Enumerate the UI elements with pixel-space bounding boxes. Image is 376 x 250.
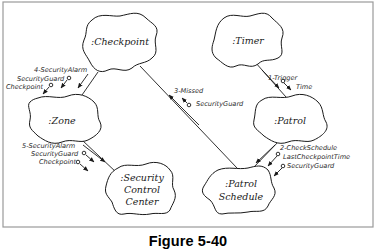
param-arrow <box>43 87 49 94</box>
object-timer[interactable]: :Timer <box>212 13 283 67</box>
param-label: LastCheckpointTime <box>283 153 350 161</box>
message-3-missed: 3-Missed SecurityGuard <box>169 87 244 125</box>
param-arrow <box>274 168 282 176</box>
message-label: 5-SecurityAlarm <box>22 142 75 150</box>
param-label: SecurityGuard <box>287 162 335 170</box>
param-arrow <box>182 98 187 103</box>
param-label: SecurityGuard <box>196 100 244 108</box>
object-label-checkpoint: :Checkpoint <box>91 36 149 47</box>
object-label-scc-line1: :Security <box>120 172 164 183</box>
param-label: SecurityGuard <box>17 75 65 83</box>
data-token-icon <box>76 160 80 164</box>
param-arrow <box>268 156 277 166</box>
param-arrow <box>86 155 94 162</box>
param-label: Checkpoint <box>6 83 44 91</box>
link-checkpoint-patrolschedule <box>140 66 237 168</box>
object-zone[interactable]: :Zone <box>29 94 101 143</box>
object-label-ps-line2: Schedule <box>219 191 264 202</box>
object-label-scc-line3: Center <box>126 196 160 207</box>
message-5-securityalarm: 5-SecurityAlarm SecurityGuard Checkpoint <box>22 142 105 171</box>
object-patrol-schedule[interactable]: :Patrol Schedule <box>202 166 275 214</box>
data-token-icon <box>49 83 53 87</box>
object-label-ps-line1: :Patrol <box>225 178 257 189</box>
param-arrow <box>284 83 291 90</box>
object-patrol[interactable]: :Patrol <box>254 94 327 143</box>
data-token-icon <box>67 76 71 80</box>
link-checkpoint-zone <box>82 72 98 95</box>
object-label-timer: :Timer <box>232 35 265 46</box>
param-label: Checkpoint <box>39 158 77 166</box>
object-label-scc-line2: Control <box>124 184 160 195</box>
message-arrow <box>256 145 275 163</box>
data-token-icon <box>82 151 86 155</box>
param-label: SecurityGuard <box>31 150 79 158</box>
param-arrow <box>80 164 88 171</box>
message-arrow <box>83 145 105 162</box>
diagram-canvas: :Checkpoint :Timer :Zone :Patrol :Securi… <box>0 0 376 250</box>
object-label-zone: :Zone <box>48 115 76 126</box>
message-arrow <box>78 74 88 88</box>
message-1-trigger: 1-Trigger Time <box>262 70 312 91</box>
param-label: Time <box>296 83 312 91</box>
data-token-icon <box>281 164 285 168</box>
message-4-securityalarm: 4-SecurityAlarm SecurityGuard Checkpoint <box>6 66 88 94</box>
data-token-icon <box>276 152 280 156</box>
figure-caption: Figure 5-40 <box>0 233 376 249</box>
cloud-shape <box>202 166 275 214</box>
message-label: 2-CheckSchedule <box>280 144 337 152</box>
data-token-icon <box>281 79 285 83</box>
object-checkpoint[interactable]: :Checkpoint <box>83 13 157 71</box>
data-token-icon <box>187 103 191 107</box>
message-label: 3-Missed <box>174 87 204 95</box>
object-label-patrol: :Patrol <box>274 115 306 126</box>
object-security-control-center[interactable]: :Security Control Center <box>105 162 175 214</box>
message-label: 4-SecurityAlarm <box>34 66 87 74</box>
message-2-checkschedule: 2-CheckSchedule LastCheckpointTime Secur… <box>256 144 350 176</box>
collaboration-diagram: :Checkpoint :Timer :Zone :Patrol :Securi… <box>0 0 376 250</box>
